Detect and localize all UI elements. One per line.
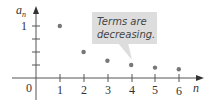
callout-line-1: Terms are <box>97 16 147 27</box>
y-axis-label-sub: n <box>22 10 26 19</box>
x-tick-label: 5 <box>152 83 158 97</box>
sequence-plot: 0 1 2 3 4 5 6 1 n an Terms are decreasin… <box>0 0 211 104</box>
data-point <box>58 24 62 28</box>
y-axis-arrow-icon <box>33 6 39 14</box>
x-tick-label: 4 <box>129 83 135 97</box>
x-tick-label: 6 <box>176 84 182 98</box>
x-tick-label: 1 <box>57 83 63 97</box>
y-axis-label: an <box>16 3 26 19</box>
x-tick-label: 3 <box>105 83 111 97</box>
data-point <box>81 50 85 54</box>
x-axis-label: n <box>193 81 199 95</box>
origin-label: 0 <box>26 81 32 95</box>
callout-line-2: decreasing. <box>97 29 155 40</box>
data-point <box>105 59 109 63</box>
x-tick-label: 2 <box>81 83 87 97</box>
data-point <box>177 67 181 71</box>
data-point <box>129 63 133 67</box>
y-tick-label: 1 <box>21 19 27 33</box>
data-point <box>153 65 157 69</box>
callout-pointer <box>118 43 132 60</box>
annotation-callout: Terms are decreasing. <box>92 12 157 60</box>
